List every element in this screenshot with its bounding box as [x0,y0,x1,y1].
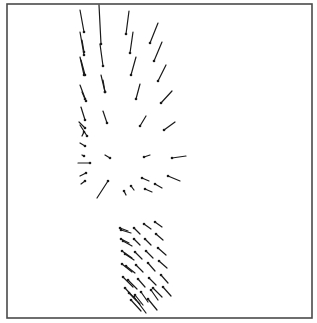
vector-arrow [138,279,145,287]
arrowhead-dot-icon [133,227,136,230]
arrowhead-dot-icon [127,279,130,282]
arrowhead-dot-icon [167,175,170,178]
arrowhead-dot-icon [163,129,166,132]
vector-arrow [128,280,137,289]
vector-layer [78,5,186,313]
arrowhead-dot-icon [130,185,133,188]
vector-arrow [99,5,101,44]
vector-arrow [80,10,84,32]
arrowhead-dot-icon [83,51,86,54]
vector-arrow [136,265,143,272]
arrowhead-dot-icon [150,289,153,292]
arrowhead-dot-icon [122,240,125,243]
vector-arrow [163,287,171,296]
arrowhead-dot-icon [147,298,150,301]
arrowhead-dot-icon [133,296,136,299]
vector-arrow [148,299,157,310]
vector-arrow [100,44,103,66]
vector-arrow [131,300,141,311]
arrowhead-dot-icon [145,250,148,253]
plot-frame [7,4,312,318]
arrowhead-dot-icon [84,98,87,101]
lower-uniform-block [119,221,171,313]
arrowhead-dot-icon [134,251,137,254]
arrowhead-dot-icon [140,291,143,294]
arrowhead-dot-icon [130,299,133,302]
arrowhead-dot-icon [120,229,123,232]
vector-arrow [131,57,136,75]
arrowhead-dot-icon [144,238,147,241]
arrowhead-dot-icon [139,125,142,128]
arrowhead-dot-icon [122,276,125,279]
vector-arrow [150,23,158,43]
vector-arrow [164,122,175,130]
vector-arrow [159,261,167,268]
vector-arrow [97,181,108,198]
vector-arrow [168,176,180,181]
arrowhead-dot-icon [133,238,136,241]
upper-converging-field [78,5,186,198]
arrowhead-dot-icon [157,247,160,250]
arrowhead-dot-icon [157,80,160,83]
arrowhead-dot-icon [135,98,138,101]
arrowhead-dot-icon [121,263,124,266]
arrowhead-dot-icon [152,287,155,290]
arrowhead-dot-icon [135,264,138,267]
arrowhead-dot-icon [153,60,156,63]
arrowhead-dot-icon [130,74,133,77]
vector-arrow [126,11,129,34]
arrowhead-dot-icon [83,31,86,34]
arrowhead-dot-icon [120,238,123,241]
vector-arrow [141,292,148,302]
arrowhead-dot-icon [148,277,151,280]
arrowhead-dot-icon [143,223,146,226]
arrowhead-dot-icon [84,119,87,122]
arrowhead-dot-icon [160,274,163,277]
arrowhead-dot-icon [137,278,140,281]
vector-field-plot [0,0,317,323]
arrowhead-dot-icon [104,91,107,94]
arrowhead-dot-icon [162,286,165,289]
vector-arrow [103,111,107,123]
vector-arrow [161,91,172,103]
vector-arrow [148,263,155,271]
vector-arrow [158,65,166,81]
arrowhead-dot-icon [121,250,124,253]
vector-arrow [156,234,163,240]
arrowhead-dot-icon [107,180,110,183]
vector-arrow [130,32,133,53]
arrowhead-dot-icon [149,42,152,45]
arrowhead-dot-icon [85,172,88,175]
arrowhead-dot-icon [123,190,126,193]
arrowhead-dot-icon [109,157,112,160]
vector-arrow [125,254,134,260]
vector-arrow [135,252,142,259]
vector-arrow [126,266,135,273]
vector-arrow [123,277,133,287]
arrowhead-dot-icon [154,183,157,186]
arrowhead-dot-icon [147,262,150,265]
arrowhead-dot-icon [154,221,157,224]
arrowhead-dot-icon [125,33,128,36]
vector-arrow [81,107,85,120]
vector-arrow [136,84,140,99]
arrowhead-dot-icon [171,157,174,160]
vector-arrow [161,275,168,283]
arrowhead-dot-icon [84,127,87,130]
arrowhead-dot-icon [83,155,86,158]
arrowhead-dot-icon [86,135,89,138]
arrowhead-dot-icon [102,65,105,68]
vector-arrow [172,156,186,158]
arrowhead-dot-icon [125,265,128,268]
arrowhead-dot-icon [160,102,163,105]
arrowhead-dot-icon [83,131,86,134]
arrowhead-dot-icon [129,52,132,55]
arrowhead-dot-icon [106,122,109,125]
arrowhead-dot-icon [143,156,146,159]
arrowhead-dot-icon [141,177,144,180]
arrowhead-dot-icon [84,145,87,148]
arrowhead-dot-icon [155,233,158,236]
arrowhead-dot-icon [83,54,86,57]
arrowhead-dot-icon [124,253,127,256]
arrowhead-dot-icon [89,162,92,165]
